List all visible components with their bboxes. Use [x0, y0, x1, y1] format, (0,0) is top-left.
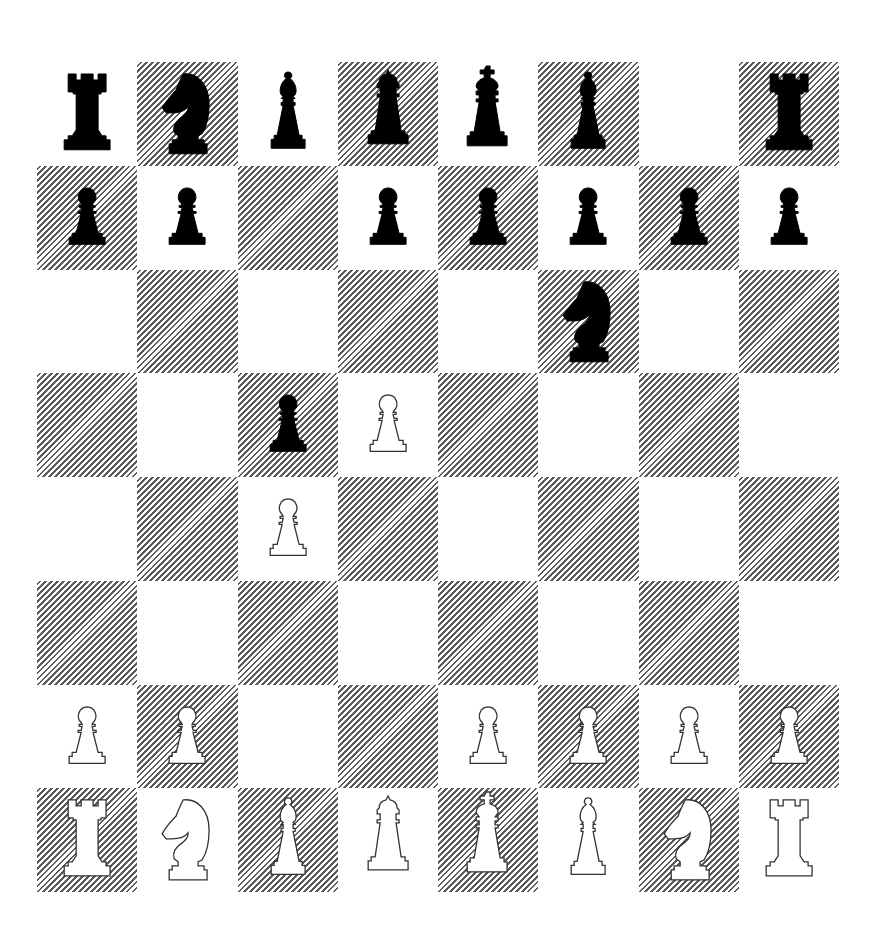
square-c4[interactable] — [238, 477, 338, 581]
square-g7[interactable] — [639, 166, 739, 270]
square-e8[interactable] — [438, 62, 538, 166]
square-d1[interactable] — [338, 788, 438, 892]
square-h7[interactable] — [739, 166, 839, 270]
square-a6[interactable] — [37, 270, 137, 374]
square-e7[interactable] — [438, 166, 538, 270]
black-pawn-icon[interactable] — [739, 166, 839, 270]
square-c1[interactable] — [238, 788, 338, 892]
white-pawn-icon[interactable] — [137, 685, 237, 789]
chess-board — [37, 62, 839, 892]
black-rook-icon[interactable] — [739, 62, 839, 166]
square-g6[interactable] — [639, 270, 739, 374]
square-c3[interactable] — [238, 581, 338, 685]
square-c5[interactable] — [238, 373, 338, 477]
white-pawn-icon[interactable] — [238, 477, 338, 581]
square-e2[interactable] — [438, 685, 538, 789]
square-e1[interactable] — [438, 788, 538, 892]
square-h2[interactable] — [739, 685, 839, 789]
black-pawn-icon[interactable] — [538, 166, 638, 270]
white-rook-icon[interactable] — [37, 788, 137, 892]
square-h6[interactable] — [739, 270, 839, 374]
square-e5[interactable] — [438, 373, 538, 477]
square-a5[interactable] — [37, 373, 137, 477]
white-bishop-icon[interactable] — [538, 788, 638, 892]
white-king-icon[interactable] — [438, 788, 538, 892]
square-g8[interactable] — [639, 62, 739, 166]
square-d2[interactable] — [338, 685, 438, 789]
square-b8[interactable] — [137, 62, 237, 166]
black-pawn-icon[interactable] — [137, 166, 237, 270]
black-knight-icon[interactable] — [538, 270, 638, 374]
square-b4[interactable] — [137, 477, 237, 581]
square-f3[interactable] — [538, 581, 638, 685]
white-queen-icon[interactable] — [338, 788, 438, 892]
black-bishop-icon[interactable] — [538, 62, 638, 166]
square-b2[interactable] — [137, 685, 237, 789]
square-f5[interactable] — [538, 373, 638, 477]
black-pawn-icon[interactable] — [37, 166, 137, 270]
square-h5[interactable] — [739, 373, 839, 477]
square-a4[interactable] — [37, 477, 137, 581]
white-rook-icon[interactable] — [739, 788, 839, 892]
square-d7[interactable] — [338, 166, 438, 270]
white-knight-icon[interactable] — [639, 788, 739, 892]
white-knight-icon[interactable] — [137, 788, 237, 892]
black-rook-icon[interactable] — [37, 62, 137, 166]
square-g4[interactable] — [639, 477, 739, 581]
square-b3[interactable] — [137, 581, 237, 685]
square-g5[interactable] — [639, 373, 739, 477]
square-b6[interactable] — [137, 270, 237, 374]
square-f1[interactable] — [538, 788, 638, 892]
square-f8[interactable] — [538, 62, 638, 166]
square-h8[interactable] — [739, 62, 839, 166]
square-b1[interactable] — [137, 788, 237, 892]
black-queen-icon[interactable] — [338, 62, 438, 166]
square-e6[interactable] — [438, 270, 538, 374]
square-a8[interactable] — [37, 62, 137, 166]
square-f6[interactable] — [538, 270, 638, 374]
square-c7[interactable] — [238, 166, 338, 270]
white-pawn-icon[interactable] — [37, 685, 137, 789]
square-a2[interactable] — [37, 685, 137, 789]
square-h3[interactable] — [739, 581, 839, 685]
square-e4[interactable] — [438, 477, 538, 581]
square-g3[interactable] — [639, 581, 739, 685]
white-pawn-icon[interactable] — [639, 685, 739, 789]
square-d3[interactable] — [338, 581, 438, 685]
black-knight-icon[interactable] — [137, 62, 237, 166]
white-pawn-icon[interactable] — [338, 373, 438, 477]
square-c6[interactable] — [238, 270, 338, 374]
square-a1[interactable] — [37, 788, 137, 892]
square-b5[interactable] — [137, 373, 237, 477]
black-pawn-icon[interactable] — [338, 166, 438, 270]
black-pawn-icon[interactable] — [438, 166, 538, 270]
square-e3[interactable] — [438, 581, 538, 685]
square-f7[interactable] — [538, 166, 638, 270]
square-c8[interactable] — [238, 62, 338, 166]
white-pawn-icon[interactable] — [739, 685, 839, 789]
square-d5[interactable] — [338, 373, 438, 477]
square-c2[interactable] — [238, 685, 338, 789]
square-d6[interactable] — [338, 270, 438, 374]
square-g2[interactable] — [639, 685, 739, 789]
square-g1[interactable] — [639, 788, 739, 892]
square-f4[interactable] — [538, 477, 638, 581]
black-king-icon[interactable] — [438, 62, 538, 166]
square-h1[interactable] — [739, 788, 839, 892]
square-b7[interactable] — [137, 166, 237, 270]
black-pawn-icon[interactable] — [639, 166, 739, 270]
square-a3[interactable] — [37, 581, 137, 685]
square-f2[interactable] — [538, 685, 638, 789]
square-a7[interactable] — [37, 166, 137, 270]
square-d8[interactable] — [338, 62, 438, 166]
white-bishop-icon[interactable] — [238, 788, 338, 892]
square-h4[interactable] — [739, 477, 839, 581]
white-pawn-icon[interactable] — [438, 685, 538, 789]
white-pawn-icon[interactable] — [538, 685, 638, 789]
black-bishop-icon[interactable] — [238, 62, 338, 166]
black-pawn-icon[interactable] — [238, 373, 338, 477]
square-d4[interactable] — [338, 477, 438, 581]
